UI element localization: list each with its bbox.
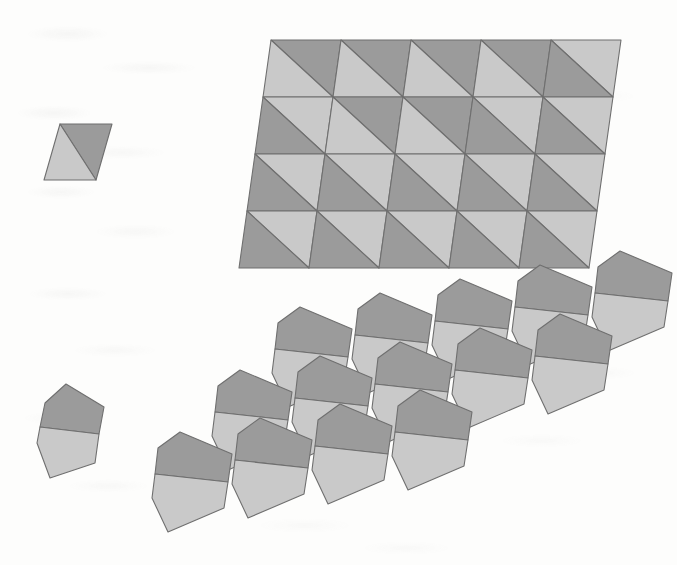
tiling-a-tile <box>535 97 613 154</box>
tiling-a-tile <box>527 154 605 211</box>
tiling-a-tile <box>519 211 597 268</box>
tiling-a-tile <box>457 154 535 211</box>
tile-region-dark <box>355 293 432 343</box>
tile-region-light <box>152 474 228 532</box>
tile-region-light <box>232 460 308 518</box>
tile-region-dark <box>515 265 592 315</box>
tile-region-dark <box>435 279 512 329</box>
tile-region-light <box>532 356 608 414</box>
tiling-a-tile <box>387 154 465 211</box>
tiling-a-tile <box>403 40 481 97</box>
tiling-a-tile <box>333 40 411 97</box>
tiling-a-tile <box>543 40 621 97</box>
tiling-b <box>152 251 672 532</box>
tiling-a-tile <box>473 40 551 97</box>
prototile-b-dark-region <box>40 384 104 434</box>
tiling-figure <box>0 0 677 565</box>
tile-region-dark <box>595 251 672 301</box>
prototile-a <box>44 124 112 180</box>
prototile-b-light-region <box>37 427 99 478</box>
tiling-a-row <box>247 154 605 211</box>
figure-page: geometric-tiling-diagram <box>0 0 677 565</box>
tiling-a-tile <box>247 154 325 211</box>
tiling-a-tile <box>317 154 395 211</box>
tiling-a-tile <box>379 211 457 268</box>
tiling-a-tile <box>255 97 333 154</box>
tiling-a-tile <box>465 97 543 154</box>
tiling-a-row <box>263 40 621 97</box>
tile-region-dark <box>275 307 352 357</box>
tiling-a <box>239 40 621 268</box>
tile-region-light <box>312 446 388 504</box>
tiling-a-row <box>239 211 597 268</box>
tiling-a-tile <box>325 97 403 154</box>
tiling-a-tile <box>395 97 473 154</box>
tiling-a-tile <box>263 40 341 97</box>
prototile-b <box>37 384 104 478</box>
tiling-a-tile <box>309 211 387 268</box>
tiling-a-tile <box>449 211 527 268</box>
tiling-a-row <box>255 97 613 154</box>
tile-region-light <box>392 432 468 490</box>
tiling-a-tile <box>239 211 317 268</box>
